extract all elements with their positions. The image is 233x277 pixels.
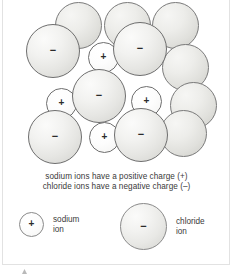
chloride-charge-symbol: − [52, 131, 58, 142]
crystal-lattice-diagram: −+−+−+−+− [0, 0, 233, 170]
legend-chloride-label-line1: chloride [176, 217, 205, 227]
legend-sodium-charge: + [29, 219, 35, 229]
sodium-charge-symbol: + [144, 96, 150, 106]
chloride-ion: − [28, 110, 82, 164]
caption-sodium: sodium ions have a positive charge (+) [0, 172, 233, 182]
corner-marker-icon [22, 269, 27, 274]
sodium-charge-symbol: + [102, 132, 108, 142]
legend-sodium-text: sodium ion [53, 215, 79, 235]
legend-item-sodium: + sodium ion [19, 212, 79, 237]
chloride-ion: − [113, 22, 167, 76]
legend: + sodium ion − chloride ion [0, 203, 233, 261]
legend-chloride-label-line2: ion [176, 227, 205, 237]
chloride-charge-symbol: − [96, 90, 102, 101]
chloride-charge-symbol: − [138, 129, 144, 140]
caption-block: sodium ions have a positive charge (+) c… [0, 172, 233, 192]
legend-sodium-label-line1: sodium [53, 215, 79, 225]
legend-sodium-sphere-icon: + [19, 212, 44, 237]
sodium-charge-symbol: + [101, 52, 107, 62]
chloride-ion: − [114, 108, 168, 162]
chloride-ion: − [26, 24, 80, 78]
chloride-charge-symbol: − [50, 45, 56, 56]
legend-chloride-sphere-icon: − [120, 203, 167, 250]
legend-chloride-charge: − [140, 221, 146, 232]
legend-item-chloride: − chloride ion [120, 203, 205, 250]
nacl-lattice-figure: −+−+−+−+− sodium ions have a positive ch… [0, 0, 233, 277]
legend-sodium-label-line2: ion [53, 225, 79, 235]
sodium-charge-symbol: + [59, 98, 65, 108]
chloride-charge-symbol: − [137, 43, 143, 54]
legend-chloride-text: chloride ion [176, 217, 205, 237]
chloride-ion: − [72, 69, 126, 123]
caption-chloride: chloride ions have a negative charge (–) [0, 182, 233, 192]
